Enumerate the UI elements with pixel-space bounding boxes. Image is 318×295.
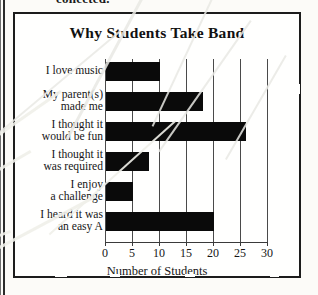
gridline-25	[240, 59, 241, 242]
x-tick-label-20: 20	[198, 246, 228, 261]
chart-title: Why Students Take Band	[15, 24, 299, 42]
category-label-line: would be fun	[7, 131, 103, 143]
scanned-page: collected. Why Students Take Band I love…	[0, 0, 318, 295]
gridline-30	[267, 59, 268, 242]
bar-i-heard-it-was-an-easy-a	[106, 212, 214, 231]
border-dropout	[185, 274, 195, 277]
border-dropout	[55, 274, 67, 277]
x-tick-label-15: 15	[171, 246, 201, 261]
x-tick-label-30: 30	[252, 246, 282, 261]
category-label-my-parents-made-me: My parent(s) made me	[7, 89, 103, 114]
bar-i-thought-it-would-be-fun	[106, 122, 246, 141]
category-label-line: a challenge	[7, 191, 103, 203]
border-dropout	[270, 274, 279, 277]
category-label-line: an easy A	[7, 221, 103, 233]
bar-i-love-music	[106, 62, 160, 81]
bar-my-parents-made-me	[106, 92, 203, 111]
border-dropout	[110, 274, 120, 277]
category-label-i-thought-it-was-required: I thought it was required	[7, 149, 103, 174]
chart-figure-frame: Why Students Take Band I love music My p…	[13, 12, 301, 278]
category-label-i-enjoy-a-challenge: I enjoy a challenge	[7, 179, 103, 204]
bar-i-thought-it-was-required	[106, 152, 149, 171]
bar-i-enjoy-a-challenge	[106, 182, 133, 201]
page-caption-fragment: collected.	[56, 0, 256, 9]
category-label-i-love-music: I love music	[7, 65, 103, 77]
category-label-line: was required	[7, 161, 103, 173]
x-tick-label-10: 10	[144, 246, 174, 261]
book-spine-line	[3, 0, 5, 295]
scan-streak	[0, 230, 11, 264]
category-label-i-thought-it-would-be-fun: I thought it would be fun	[7, 119, 103, 144]
x-tick-label-25: 25	[225, 246, 255, 261]
border-dropout	[297, 84, 300, 94]
x-tick-label-5: 5	[117, 246, 147, 261]
category-label-i-heard-it-was-an-easy-a: I heard it was an easy A	[7, 209, 103, 234]
x-tick-label-0: 0	[90, 246, 120, 261]
category-label-line: made me	[7, 101, 103, 113]
category-label-line: I love music	[7, 65, 103, 77]
page-edge-line	[0, 0, 1, 295]
